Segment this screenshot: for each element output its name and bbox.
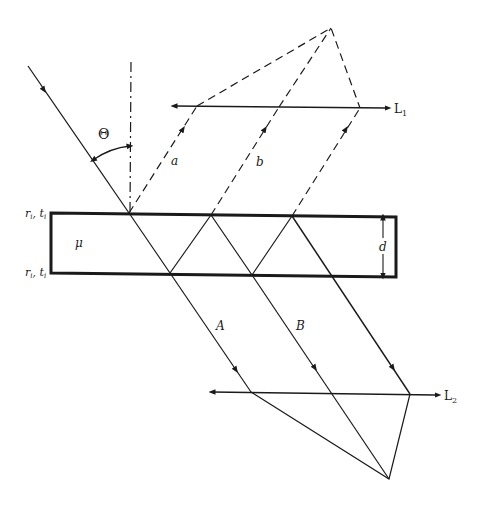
reflected-ray-c [292, 108, 360, 216]
lens-L2 [212, 392, 435, 395]
ray-A-label: A [215, 319, 225, 333]
theta-label: Θ [98, 126, 109, 142]
thickness-label: d [379, 240, 387, 254]
ray-b-label: b [256, 155, 264, 169]
reflected-ray-a [129, 106, 197, 213]
top-surface-coefficients: ri, ti [25, 207, 46, 221]
theta-arc [93, 146, 130, 160]
internal-ray-path [129, 213, 292, 275]
incident-ray [28, 66, 129, 213]
lower-focus-lines [251, 392, 410, 479]
lens-L1-label: L1 [394, 102, 407, 118]
upper-focus-line-b [279, 28, 331, 107]
upper-focus-lines [197, 28, 360, 108]
transmitted-ray-C [292, 216, 410, 394]
surface-normal [130, 62, 131, 213]
refractive-index-label: μ [75, 236, 83, 250]
ray-c-arrow-icon [341, 129, 346, 137]
reflected-ray-b [211, 107, 279, 215]
thin-film-diagram: Θ A B L2 a b L1 d μ ri, ti ri, ti [0, 0, 481, 509]
ray-B-label: B [295, 319, 305, 333]
bottom-surface-coefficients: ri, ti [25, 266, 46, 280]
film-slab [51, 213, 396, 277]
transmitted-ray-A [170, 273, 251, 392]
ray-a-label: a [171, 154, 178, 168]
lens-L2-label: L2 [444, 389, 457, 405]
transmitted-ray-B [252, 275, 389, 479]
